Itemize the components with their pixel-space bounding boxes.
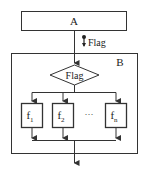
block-a: A	[22, 12, 127, 31]
decision-diamond: Flag	[50, 65, 99, 85]
signal-arrow-icon	[82, 43, 86, 47]
function-box-f1: f1	[22, 104, 43, 128]
block-a-label: A	[70, 15, 78, 27]
function-subscript: 1	[30, 116, 34, 124]
distribution-lines	[32, 85, 116, 101]
merge-lines	[32, 128, 116, 163]
function-box-f2: f2	[53, 104, 74, 128]
flag-signal: Flag	[82, 35, 106, 48]
function-subscript: n	[114, 116, 118, 124]
block-b-label: B	[116, 56, 123, 68]
decision-label: Flag	[66, 70, 84, 81]
function-subscript: 2	[61, 116, 65, 124]
signal-label: Flag	[88, 37, 106, 48]
flowchart: A Flag B Flag f1 f2 ···	[0, 0, 146, 176]
ellipsis: ···	[85, 109, 94, 119]
function-box-fn: fn	[106, 104, 127, 128]
